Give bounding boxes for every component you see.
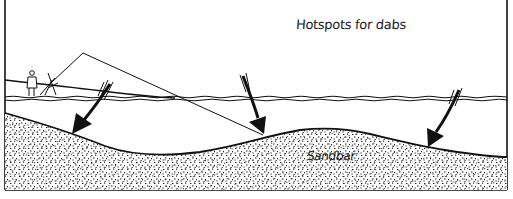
diagram-svg — [0, 0, 513, 199]
dab-hotspots-diagram: Hotspots for dabs Sandbar — [0, 0, 513, 199]
angler-figure — [27, 71, 37, 96]
water-surface — [5, 96, 507, 101]
sandbar-label: Sandbar — [306, 149, 356, 163]
diagram-title: Hotspots for dabs — [295, 17, 406, 32]
hotspot-arrow-middle — [240, 73, 266, 134]
